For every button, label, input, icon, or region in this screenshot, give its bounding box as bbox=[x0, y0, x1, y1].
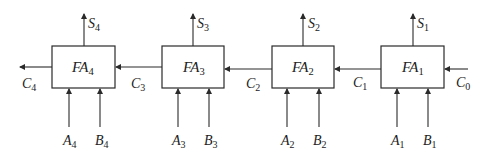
c1-label: C1 bbox=[353, 75, 367, 92]
b4-label: B4 bbox=[95, 133, 109, 150]
b2-label: B2 bbox=[313, 133, 327, 150]
a1-label: A1 bbox=[390, 133, 405, 150]
full-adder-block-2: FA2 S2 A2 B2 bbox=[272, 14, 334, 150]
c4-label: C4 bbox=[22, 76, 36, 93]
b3-label: B3 bbox=[204, 133, 218, 150]
c0-label: C0 bbox=[456, 75, 470, 92]
c3-label: C3 bbox=[131, 76, 145, 93]
full-adder-block-3: FA3 S3 A3 B3 bbox=[162, 14, 224, 150]
b1-label: B1 bbox=[423, 133, 437, 150]
c2-label: C2 bbox=[246, 76, 260, 93]
full-adder-block-1: FA1 S1 A1 B1 bbox=[381, 14, 444, 150]
a3-label: A3 bbox=[171, 133, 186, 150]
a4-label: A4 bbox=[62, 133, 77, 150]
full-adder-block-4: FA4 S4 A4 B4 bbox=[52, 14, 115, 150]
s4-label: S4 bbox=[88, 16, 100, 33]
a2-label: A2 bbox=[280, 133, 295, 150]
ripple-carry-adder-diagram: FA4 S4 A4 B4 C4 C3 FA3 S3 A3 B3 C2 FA2 S… bbox=[0, 0, 489, 156]
s1-label: S1 bbox=[417, 16, 429, 33]
s2-label: S2 bbox=[308, 16, 320, 33]
s3-label: S3 bbox=[197, 16, 209, 33]
